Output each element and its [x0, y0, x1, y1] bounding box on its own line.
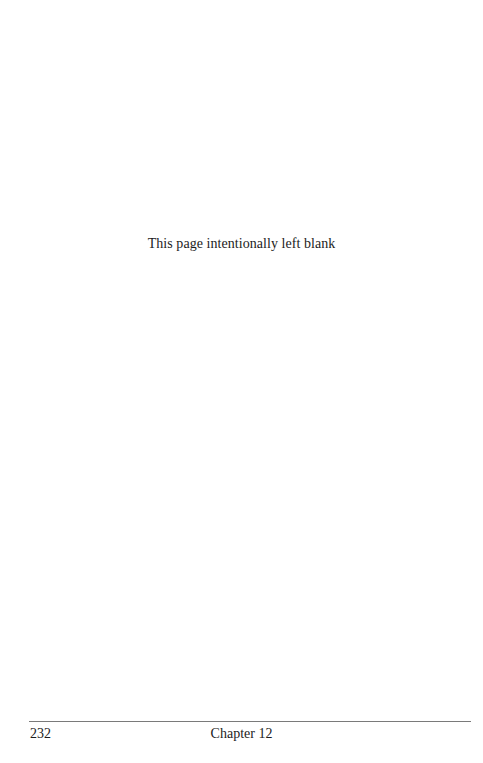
page-number: 232	[30, 725, 51, 743]
intentionally-blank-notice: This page intentionally left blank	[0, 235, 483, 253]
page-footer: Chapter 12 232	[0, 725, 483, 743]
running-chapter-title: Chapter 12	[0, 725, 483, 743]
document-page: This page intentionally left blank Chapt…	[0, 0, 483, 763]
footer-divider	[29, 721, 471, 722]
